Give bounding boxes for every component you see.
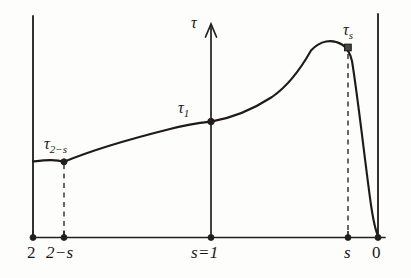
- tau-curve: [33, 41, 379, 237]
- tau-2-minus-s-subscript: 2−s: [50, 143, 67, 155]
- x-tick-label-2-minus-s: 2−s: [46, 244, 74, 261]
- tau-axis-label: τ: [191, 15, 197, 31]
- tau-1-subscript: 1: [184, 107, 190, 119]
- point-marker-tau-2-minus-s: [61, 159, 67, 165]
- point-marker-tau-s: [345, 44, 352, 51]
- tau-s-subscript: s: [349, 29, 353, 41]
- figure-canvas: τ τ2−s τ1 τs 2 2−s s=1 s 0: [0, 0, 411, 278]
- x-tick-label-2: 2: [27, 244, 36, 261]
- tau-s-label: τs: [343, 22, 353, 41]
- tau-2-minus-s-label: τ2−s: [44, 136, 67, 155]
- point-marker-tau-1: [208, 118, 215, 125]
- tau-1-label: τ1: [178, 100, 189, 119]
- axis-dot-s-equals-1: [208, 235, 214, 241]
- x-tick-label-s-equals-1: s=1: [191, 244, 219, 261]
- x-tick-label-0: 0: [372, 244, 381, 261]
- axis-dot-s: [345, 235, 351, 241]
- x-tick-label-s: s: [344, 244, 351, 261]
- axis-dot-0: [375, 235, 381, 241]
- axis-dot-2: [30, 235, 36, 241]
- axis-dot-2-minus-s: [61, 235, 67, 241]
